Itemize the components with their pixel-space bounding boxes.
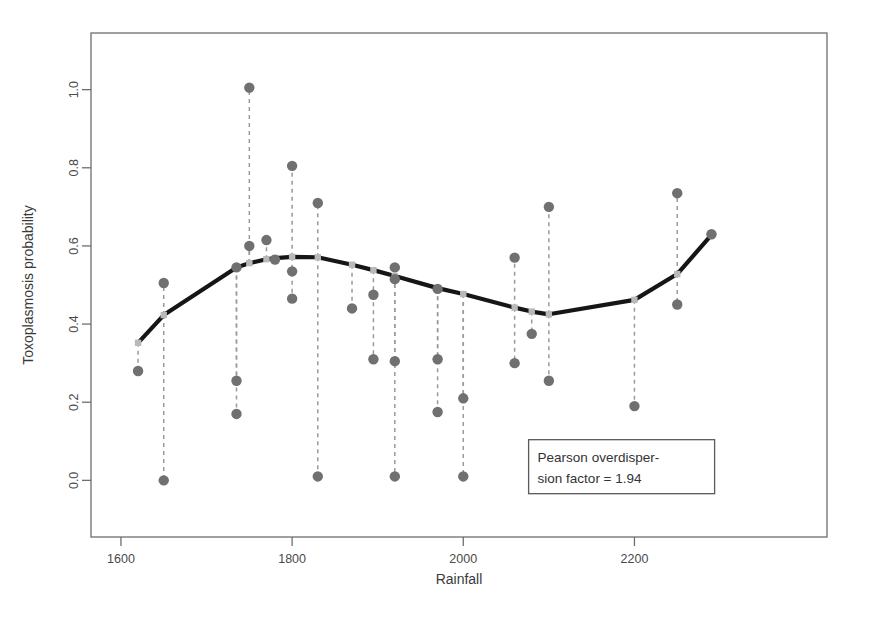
y-axis-title: Toxoplasmosis probability xyxy=(20,205,36,365)
data-point xyxy=(390,262,400,272)
data-point xyxy=(544,376,554,386)
data-point xyxy=(231,376,241,386)
figure-container: 0.00.20.40.60.81.0 1600180020002200 Rain… xyxy=(0,0,872,620)
data-point xyxy=(527,329,537,339)
plot-frame xyxy=(91,33,827,537)
data-point xyxy=(390,471,400,481)
fit-knot-marker xyxy=(370,267,376,273)
data-point xyxy=(261,235,271,245)
data-point xyxy=(672,299,682,309)
data-point xyxy=(159,475,169,485)
x-tick-label: 2000 xyxy=(449,552,477,566)
data-point xyxy=(706,229,716,239)
residual-lines xyxy=(138,88,677,481)
data-point xyxy=(390,356,400,366)
y-tick-label: 1.0 xyxy=(67,81,81,98)
data-point xyxy=(368,290,378,300)
data-point xyxy=(270,254,280,264)
data-point xyxy=(313,198,323,208)
data-point xyxy=(287,266,297,276)
data-point xyxy=(458,471,468,481)
fit-knot-marker xyxy=(460,291,466,297)
fitted-spline-path xyxy=(138,235,711,343)
x-axis: 1600180020002200 xyxy=(107,537,648,566)
data-point xyxy=(287,161,297,171)
data-point xyxy=(390,274,400,284)
y-axis: 0.00.20.40.60.81.0 xyxy=(67,81,91,489)
annotation-line: sion factor = 1.94 xyxy=(538,471,642,486)
fit-knot-marker xyxy=(511,304,517,310)
y-tick-label: 0.2 xyxy=(67,393,81,410)
fit-knot-marker xyxy=(349,261,355,267)
data-point xyxy=(458,393,468,403)
data-point xyxy=(244,241,254,251)
fit-knot-marker xyxy=(246,260,252,266)
y-tick-label: 0.0 xyxy=(67,472,81,489)
fit-knot-marker xyxy=(135,340,141,346)
data-point xyxy=(672,188,682,198)
fit-knot-marker xyxy=(546,311,552,317)
fitted-curve xyxy=(135,232,715,346)
toxoplasmosis-rainfall-scatter-chart: 0.00.20.40.60.81.0 1600180020002200 Rain… xyxy=(0,0,872,620)
data-point xyxy=(133,366,143,376)
data-point xyxy=(231,262,241,272)
x-axis-title: Rainfall xyxy=(436,571,483,587)
data-point xyxy=(509,252,519,262)
data-point xyxy=(159,278,169,288)
x-tick-label: 2200 xyxy=(621,552,649,566)
data-point xyxy=(629,401,639,411)
annotation-box: Pearson overdisper-sion factor = 1.94 xyxy=(529,440,715,494)
data-point xyxy=(432,407,442,417)
x-tick-label: 1600 xyxy=(107,552,135,566)
data-point xyxy=(544,202,554,212)
data-point xyxy=(432,284,442,294)
fit-knot-marker xyxy=(674,271,680,277)
fit-knot-marker xyxy=(631,297,637,303)
data-point xyxy=(509,358,519,368)
data-point xyxy=(287,293,297,303)
data-point xyxy=(368,354,378,364)
data-point xyxy=(313,471,323,481)
fit-knot-marker xyxy=(263,256,269,262)
fit-knot-marker xyxy=(315,254,321,260)
data-point xyxy=(347,303,357,313)
data-point xyxy=(244,82,254,92)
y-tick-label: 0.6 xyxy=(67,237,81,254)
y-tick-label: 0.8 xyxy=(67,159,81,176)
fit-knot-marker xyxy=(289,254,295,260)
fit-knot-marker xyxy=(161,312,167,318)
y-tick-label: 0.4 xyxy=(67,315,81,332)
x-tick-label: 1800 xyxy=(278,552,306,566)
annotation-line: Pearson overdisper- xyxy=(538,450,660,465)
data-point xyxy=(432,354,442,364)
data-point xyxy=(231,409,241,419)
fit-knot-marker xyxy=(529,308,535,314)
